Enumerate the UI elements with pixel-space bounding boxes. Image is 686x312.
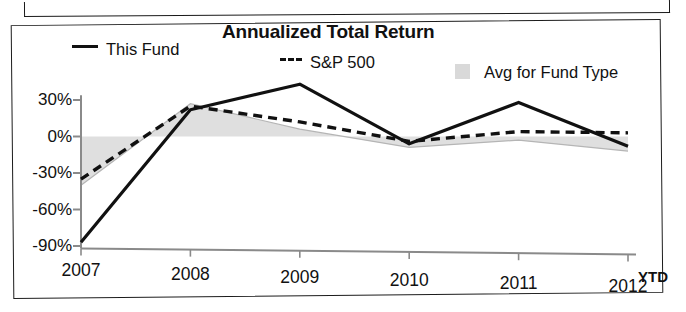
x-axis-tick-label: 2011 — [500, 273, 538, 294]
plot-area — [0, 0, 686, 312]
x-axis-tick-label: 2008 — [171, 264, 210, 285]
x-axis-tick-label: 2007 — [62, 260, 101, 281]
series-this-fund — [81, 84, 628, 242]
y-axis-tick-label: -90% — [32, 236, 72, 256]
x-axis-line — [81, 248, 636, 254]
x-axis-tick-label: 2009 — [280, 267, 319, 288]
x-axis-tick-label: 2010 — [390, 270, 429, 291]
x-axis-ytd-note: YTD — [638, 268, 668, 285]
scanned-chart-page: Annualized Total Return This Fund S&P 50… — [0, 0, 686, 312]
chart-content: Annualized Total Return This Fund S&P 50… — [0, 0, 686, 312]
